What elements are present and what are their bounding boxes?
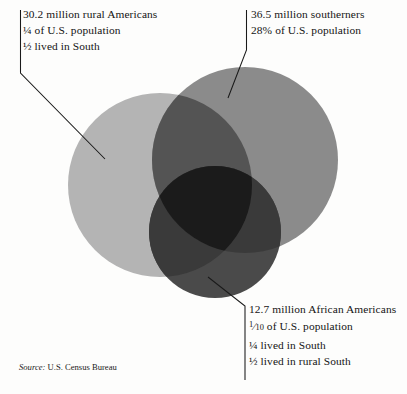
source-label: Source: xyxy=(19,362,45,372)
venn-diagram-figure: 30.2 million rural Americans ¼ of U.S. p… xyxy=(0,0,407,394)
annotation-rural-americans: 30.2 million rural Americans ¼ of U.S. p… xyxy=(23,6,157,55)
source-text: U.S. Census Bureau xyxy=(45,362,116,372)
annotation-southerners-line-1: 36.5 million southerners xyxy=(251,6,364,22)
source-note: Source: U.S. Census Bureau xyxy=(19,361,117,373)
annotation-rural-line-1: 30.2 million rural Americans xyxy=(23,6,157,22)
annotation-rural-line-3: ½ lived in South xyxy=(23,38,157,54)
annotation-african-line-4: ½ lived in rural South xyxy=(249,353,396,369)
annotation-southerners-line-2: 28% of U.S. population xyxy=(251,22,364,38)
annotation-african-americans: 12.7 million African Americans 1⁄10 of U… xyxy=(249,301,396,369)
fraction-one-tenth: 1⁄10 xyxy=(249,317,264,337)
annotation-southerners: 36.5 million southerners 28% of U.S. pop… xyxy=(251,6,364,38)
annotation-african-line-2-text: of U.S. population xyxy=(264,320,353,332)
annotation-african-line-2: 1⁄10 of U.S. population xyxy=(249,317,396,337)
fraction-denominator: 10 xyxy=(256,323,264,332)
annotation-rural-line-2: ¼ of U.S. population xyxy=(23,22,157,38)
annotation-african-line-3: ¼ lived in South xyxy=(249,337,396,353)
annotation-african-line-1: 12.7 million African Americans xyxy=(249,301,396,317)
